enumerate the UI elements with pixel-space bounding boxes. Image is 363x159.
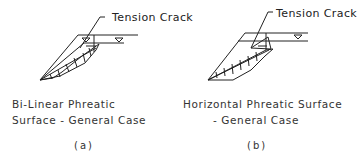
caption-line-1: Bi-Linear Phreatic (12, 97, 115, 112)
caption-line-1: Horizontal Phreatic Surface (183, 97, 342, 112)
figure-sublabel: (a) (74, 140, 94, 151)
caption-line-2: Surface - General Case (12, 113, 146, 128)
figure-sublabel: (b) (247, 140, 267, 151)
caption-line-2: - General Case (213, 113, 299, 128)
tension-crack-label: Tension Crack (276, 6, 357, 21)
figure-a: Tension Crack Bi-Linear Phreatic Surface… (0, 0, 181, 159)
figure-b: Tension Crack Horizontal Phreatic Surfac… (181, 0, 363, 159)
slope-diagram-horizontal (181, 0, 363, 159)
